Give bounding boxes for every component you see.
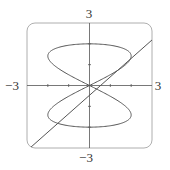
- x-min-label: −3: [5, 78, 19, 93]
- chart: 3 −3 −3 3: [0, 0, 170, 170]
- x-max-label: 3: [155, 78, 162, 93]
- y-max-label: 3: [86, 6, 93, 21]
- y-min-label: −3: [79, 150, 93, 165]
